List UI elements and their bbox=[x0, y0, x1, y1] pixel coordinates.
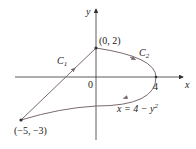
diagram-canvas: y x 0 4 (0, 2) (−5, −3) C1 C2 x = 4 − y2 bbox=[0, 0, 196, 149]
c2-label: C2 bbox=[139, 47, 150, 60]
y-axis-label: y bbox=[85, 6, 91, 17]
c1-label: C1 bbox=[57, 55, 67, 68]
origin-label: 0 bbox=[88, 79, 93, 90]
point-label-bottom-left: (−5, −3) bbox=[14, 125, 47, 137]
c1-direction-arrow-icon bbox=[71, 69, 74, 72]
c2-direction-arrow-icon bbox=[130, 57, 134, 59]
x-axis-label: x bbox=[184, 79, 190, 90]
point-label-top: (0, 2) bbox=[99, 35, 121, 47]
point-0-2 bbox=[94, 46, 97, 49]
x-tick-4-label: 4 bbox=[153, 81, 158, 92]
parabola-direction-arrow-icon bbox=[125, 97, 128, 98]
parabola-equation: x = 4 − y2 bbox=[116, 102, 158, 114]
point-4-0 bbox=[155, 76, 158, 79]
point-neg5-neg3 bbox=[19, 118, 22, 121]
